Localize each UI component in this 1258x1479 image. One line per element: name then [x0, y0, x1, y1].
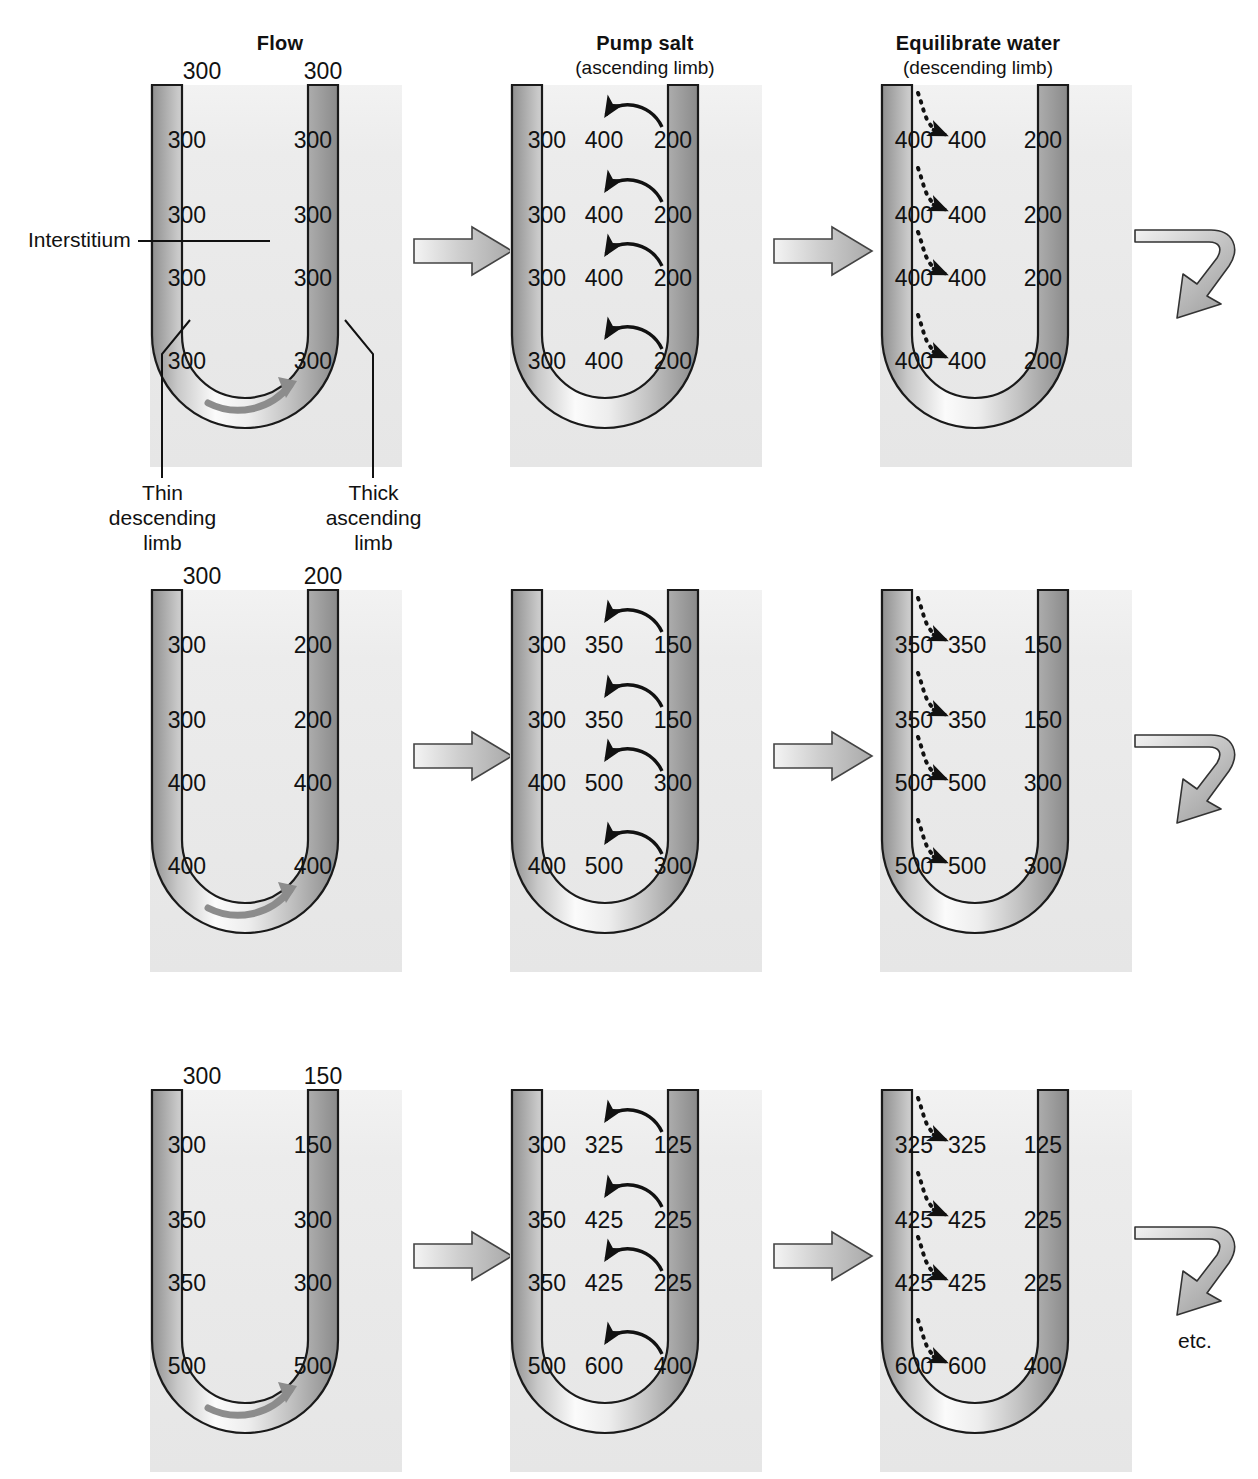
outflow-value-r1: 300 — [288, 60, 358, 83]
ascending-value-r3-2: 300 — [254, 1272, 332, 1295]
pump-descending-value-r2-1: 300 — [488, 709, 566, 732]
thin-descending-limb-line1: Thin — [80, 480, 245, 505]
pump-ascending-value-r1-3: 200 — [614, 350, 692, 373]
pump-descending-value-r2-3: 400 — [488, 855, 566, 878]
eq-descending-value-r2-2: 500 — [855, 772, 933, 795]
pump-descending-value-r3-0: 300 — [488, 1134, 566, 1157]
pump-ascending-value-r1-2: 200 — [614, 267, 692, 290]
descending-value-r3-2: 350 — [128, 1272, 206, 1295]
eq-ascending-value-r2-3: 300 — [984, 855, 1062, 878]
eq-ascending-value-r3-1: 225 — [984, 1209, 1062, 1232]
eq-descending-value-r3-0: 325 — [855, 1134, 933, 1157]
stage-row-3: 300 150 300 350 350 500 150 300 300 500 — [0, 1005, 1258, 1479]
ascending-value-r1-1: 300 — [254, 204, 332, 227]
ascending-value-r3-3: 500 — [254, 1355, 332, 1378]
outflow-value-r2: 200 — [288, 565, 358, 588]
eq-descending-value-r3-1: 425 — [855, 1209, 933, 1232]
ascending-value-r1-2: 300 — [254, 267, 332, 290]
loop-panel-equilibrate-r3: 325 425 425 600 325 425 425 600 125 225 … — [880, 1090, 1132, 1472]
loop-panel-pump-r2: 300 300 400 400 350 350 500 500 150 150 … — [510, 590, 762, 972]
eq-ascending-value-r3-0: 125 — [984, 1134, 1062, 1157]
pump-descending-value-r3-2: 350 — [488, 1272, 566, 1295]
pump-ascending-value-r3-2: 225 — [614, 1272, 692, 1295]
ascending-value-r3-0: 150 — [254, 1134, 332, 1157]
ascending-value-r1-0: 300 — [254, 129, 332, 152]
eq-ascending-value-r2-1: 150 — [984, 709, 1062, 732]
pump-descending-value-r1-1: 300 — [488, 204, 566, 227]
ascending-value-r2-3: 400 — [254, 855, 332, 878]
pump-descending-value-r2-0: 300 — [488, 634, 566, 657]
inflow-value-r2: 300 — [167, 565, 237, 588]
ascending-value-r2-1: 200 — [254, 709, 332, 732]
ascending-value-r3-1: 300 — [254, 1209, 332, 1232]
descending-value-r2-0: 300 — [128, 634, 206, 657]
pump-ascending-value-r2-3: 300 — [614, 855, 692, 878]
eq-ascending-value-r1-1: 200 — [984, 204, 1062, 227]
stage-row-1: 300 300 300 300 300 300 300 300 300 300 … — [0, 0, 1258, 560]
eq-ascending-value-r3-2: 225 — [984, 1272, 1062, 1295]
eq-ascending-value-r2-0: 150 — [984, 634, 1062, 657]
descending-value-r1-2: 300 — [128, 267, 206, 290]
pump-ascending-value-r1-1: 200 — [614, 204, 692, 227]
eq-descending-value-r1-1: 400 — [855, 204, 933, 227]
pump-ascending-value-r2-1: 150 — [614, 709, 692, 732]
descending-value-r3-1: 350 — [128, 1209, 206, 1232]
wrap-arrow-r2 — [1133, 723, 1258, 833]
etc-label: etc. — [1155, 1330, 1235, 1352]
descending-value-r2-3: 400 — [128, 855, 206, 878]
eq-descending-value-r1-2: 400 — [855, 267, 933, 290]
descending-value-r3-0: 300 — [128, 1134, 206, 1157]
inflow-value-r1: 300 — [167, 60, 237, 83]
stage-row-2: 300 200 300 300 400 400 200 200 400 400 — [0, 505, 1258, 995]
pump-descending-value-r2-2: 400 — [488, 772, 566, 795]
eq-ascending-value-r1-0: 200 — [984, 129, 1062, 152]
pump-ascending-value-r3-3: 400 — [614, 1355, 692, 1378]
pump-descending-value-r3-3: 500 — [488, 1355, 566, 1378]
descending-value-r2-1: 300 — [128, 709, 206, 732]
eq-descending-value-r3-3: 600 — [855, 1355, 933, 1378]
pump-ascending-value-r3-0: 125 — [614, 1134, 692, 1157]
loop-panel-flow-r3: 300 350 350 500 150 300 300 500 — [150, 1090, 402, 1472]
loop-panel-flow-r2: 300 300 400 400 200 200 400 400 — [150, 590, 402, 972]
eq-ascending-value-r1-3: 200 — [984, 350, 1062, 373]
interstitium-leader-line — [138, 237, 388, 247]
pump-descending-value-r1-2: 300 — [488, 267, 566, 290]
descending-value-r3-3: 500 — [128, 1355, 206, 1378]
eq-ascending-value-r3-3: 400 — [984, 1355, 1062, 1378]
thick-ascending-limb-line1: Thick — [291, 480, 456, 505]
interstitium-label: Interstitium — [28, 227, 131, 252]
wrap-arrow-r3 — [1133, 1215, 1258, 1325]
pump-ascending-value-r1-0: 200 — [614, 129, 692, 152]
loop-panel-equilibrate-r2: 350 350 500 500 350 350 500 500 150 150 … — [880, 590, 1132, 972]
ascending-value-r2-2: 400 — [254, 772, 332, 795]
eq-descending-value-r2-3: 500 — [855, 855, 933, 878]
pump-descending-value-r3-1: 350 — [488, 1209, 566, 1232]
outflow-value-r3: 150 — [288, 1065, 358, 1088]
pump-ascending-value-r2-0: 150 — [614, 634, 692, 657]
wrap-arrow-r1 — [1133, 218, 1258, 328]
eq-ascending-value-r2-2: 300 — [984, 772, 1062, 795]
eq-descending-value-r1-0: 400 — [855, 129, 933, 152]
pump-ascending-value-r2-2: 300 — [614, 772, 692, 795]
loop-panel-equilibrate-r1: 400 400 400 400 400 400 400 400 200 200 … — [880, 85, 1132, 467]
eq-ascending-value-r1-2: 200 — [984, 267, 1062, 290]
descending-value-r2-2: 400 — [128, 772, 206, 795]
pump-ascending-value-r3-1: 225 — [614, 1209, 692, 1232]
eq-descending-value-r3-2: 425 — [855, 1272, 933, 1295]
loop-panel-pump-r3: 300 350 350 500 325 425 425 600 125 225 … — [510, 1090, 762, 1472]
eq-descending-value-r1-3: 400 — [855, 350, 933, 373]
descending-value-r1-1: 300 — [128, 204, 206, 227]
descending-value-r1-0: 300 — [128, 129, 206, 152]
eq-descending-value-r2-1: 350 — [855, 709, 933, 732]
inflow-value-r3: 300 — [167, 1065, 237, 1088]
ascending-value-r2-0: 200 — [254, 634, 332, 657]
eq-descending-value-r2-0: 350 — [855, 634, 933, 657]
loop-panel-pump-r1: 300 300 300 300 400 400 400 400 200 200 … — [510, 85, 762, 467]
pump-descending-value-r1-3: 300 — [488, 350, 566, 373]
limb-leader-lines — [140, 318, 410, 488]
pump-descending-value-r1-0: 300 — [488, 129, 566, 152]
